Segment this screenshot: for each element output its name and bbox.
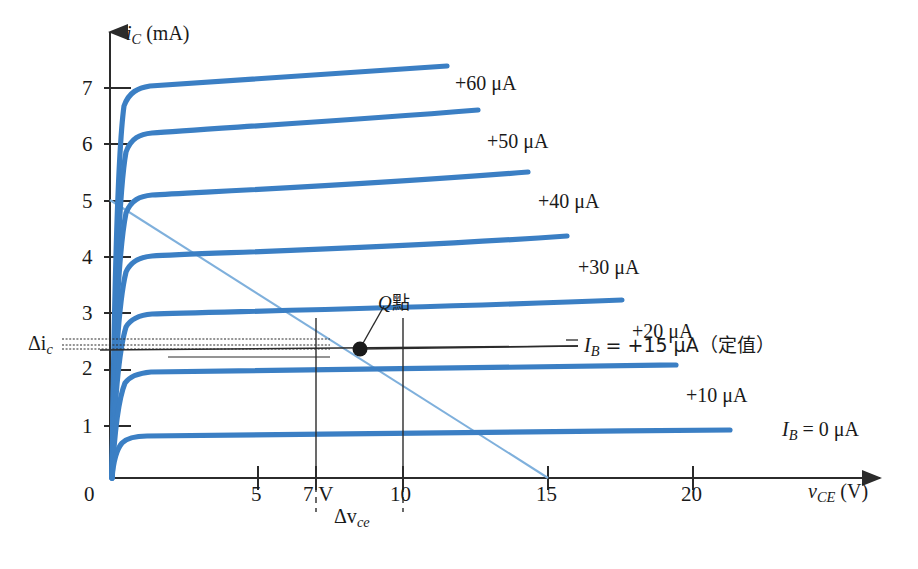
y-tick-6: 6 <box>82 132 93 157</box>
y-axis-title: iC (mA) <box>126 22 190 48</box>
ib-constant-line <box>100 346 578 350</box>
curve-label-50ua: +50 μA <box>487 130 548 153</box>
x-axis-title: vCE (V) <box>808 480 868 506</box>
q-point-label: Q點 <box>378 288 410 314</box>
y-axis-unit: (mA) <box>146 22 189 44</box>
x-axis-symbol: v <box>808 480 817 502</box>
x-tick-10: 10 <box>390 482 411 507</box>
curve-label-40ua: +40 μA <box>538 190 599 213</box>
ib-zero-label: IB = 0 μA <box>782 418 859 444</box>
curve-ib-10ua <box>112 365 676 478</box>
y-tick-4: 4 <box>82 245 93 270</box>
ib-constant-symbol: I <box>584 334 591 356</box>
ib-zero-text: = 0 μA <box>797 418 858 440</box>
delta-ic-label: Δic <box>28 332 53 358</box>
curve-ib-60ua <box>112 66 447 478</box>
y-tick-0: 0 <box>84 482 95 507</box>
delta-vce-subscript: ce <box>357 514 370 530</box>
curve-ib-50ua <box>112 110 478 478</box>
q-point-symbol: Q <box>378 292 392 313</box>
y-tick-5: 5 <box>82 189 93 214</box>
ib-zero-symbol: I <box>782 418 789 440</box>
x-axis-unit: (V) <box>840 480 868 502</box>
y-tick-2: 2 <box>82 356 93 381</box>
x-tick-7v: 7 V <box>303 482 334 507</box>
figure-canvas: iC (mA) vCE (V) 7 6 5 4 3 2 1 0 5 7 V 10… <box>0 0 918 569</box>
delta-vce-label: Δvce <box>334 505 370 531</box>
ib-constant-text: = +15 μA（定值） <box>599 334 774 356</box>
x-tick-20: 20 <box>681 482 702 507</box>
q-point-cjk: 點 <box>392 292 410 313</box>
y-tick-7: 7 <box>82 76 93 101</box>
curve-ib-20ua <box>112 300 622 478</box>
curve-ib-0ua <box>112 430 730 478</box>
delta-ic-symbol: Δi <box>28 332 46 354</box>
ib-constant-label: IB = +15 μA（定值） <box>584 330 775 360</box>
delta-vce-symbol: Δv <box>334 505 357 527</box>
y-tick-1: 1 <box>82 414 93 439</box>
y-axis-subscript: C <box>132 31 142 47</box>
x-tick-15: 15 <box>536 482 557 507</box>
curve-label-60ua: +60 μA <box>455 72 516 95</box>
delta-ic-subscript: c <box>46 341 52 357</box>
y-tick-3: 3 <box>82 301 93 326</box>
curve-label-30ua: +30 μA <box>578 256 639 279</box>
x-axis-subscript: CE <box>817 489 835 505</box>
curve-label-10ua: +10 μA <box>686 384 747 407</box>
x-tick-5: 5 <box>251 482 262 507</box>
